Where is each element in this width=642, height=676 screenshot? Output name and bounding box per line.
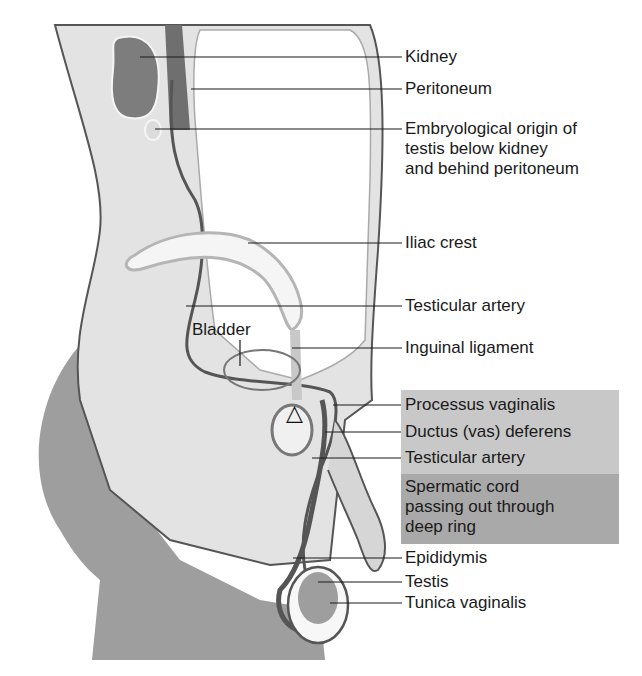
label-testicular-artery-lower: Testicular artery [405,448,525,468]
label-inguinal-ligament: Inguinal ligament [405,338,534,358]
anatomy-illustration: △ [0,0,642,676]
label-testis: Testis [405,572,448,592]
label-embryological-origin: Embryological origin of testis below kid… [405,119,579,179]
label-kidney: Kidney [405,47,457,67]
label-processus-vaginalis: Processus vaginalis [405,395,555,415]
embryonic-testis [145,120,161,140]
label-testicular-artery-upper: Testicular artery [405,296,525,316]
label-ductus-deferens: Ductus (vas) deferens [405,422,571,442]
kidney-shape [112,37,159,119]
label-bladder: Bladder [192,320,251,340]
label-peritoneum: Peritoneum [405,79,492,99]
testis-shape [298,572,338,624]
anatomy-diagram: △ Kidney Peritoneum Embryological origin… [0,0,642,676]
label-tunica-vaginalis: Tunica vaginalis [405,593,526,613]
label-spermatic-cord: Spermatic cord passing out through deep … [405,477,554,537]
inguinal-ligament-shape [290,330,302,400]
deep-ring-marker: △ [286,400,303,425]
label-iliac-crest: Iliac crest [405,233,477,253]
label-epididymis: Epididymis [405,548,487,568]
